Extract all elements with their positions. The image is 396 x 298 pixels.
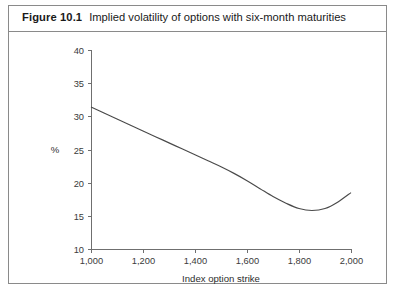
y-axis-label: % xyxy=(51,144,60,155)
x-tick-label: 1,800 xyxy=(288,256,311,266)
x-tick-label: 1,400 xyxy=(184,256,207,266)
y-tick-label: 10 xyxy=(74,245,84,255)
y-tick-label: 40 xyxy=(74,46,84,56)
figure-caption-bar: Figure 10.1Implied volatility of options… xyxy=(9,6,386,32)
y-tick-label: 15 xyxy=(74,212,84,222)
y-tick-label: 25 xyxy=(74,146,84,156)
x-tick-label: 1,200 xyxy=(132,256,155,266)
y-axis-tick-marks xyxy=(88,51,91,250)
y-tick-label: 30 xyxy=(74,112,84,122)
chart-plot-area: 10152025303540 1,0001,2001,4001,6001,800… xyxy=(9,32,386,284)
implied-volatility-curve xyxy=(91,107,351,210)
figure-number: Figure 10.1 xyxy=(22,11,82,23)
x-axis-label: Index option strike xyxy=(182,273,260,284)
x-tick-label: 1,600 xyxy=(236,256,259,266)
figure-caption: Figure 10.1Implied volatility of options… xyxy=(22,11,346,23)
figure-title: Implied volatility of options with six-m… xyxy=(89,11,346,23)
x-tick-label: 1,000 xyxy=(80,256,103,266)
y-tick-label: 20 xyxy=(74,179,84,189)
y-axis-tick-labels: 10152025303540 xyxy=(74,46,84,255)
x-axis-tick-labels: 1,0001,2001,4001,6001,8002,000 xyxy=(80,256,363,266)
y-tick-label: 35 xyxy=(74,79,84,89)
figure-panel: Figure 10.1Implied volatility of options… xyxy=(8,5,387,284)
implied-volatility-chart: 10152025303540 1,0001,2001,4001,6001,800… xyxy=(9,32,386,284)
x-tick-label: 2,000 xyxy=(340,256,363,266)
